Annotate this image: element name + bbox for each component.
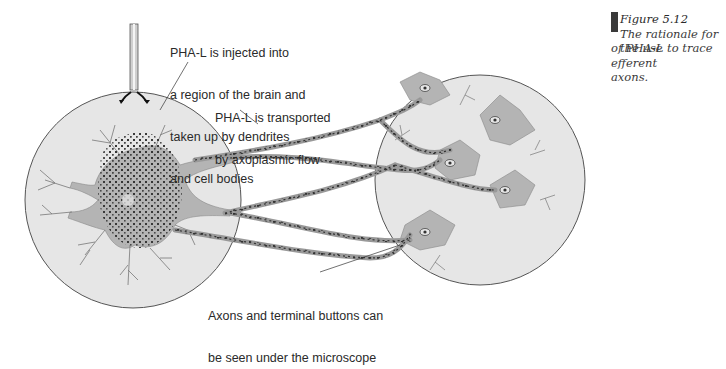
transport-label-line2: by axoplasmic flow [215, 153, 331, 167]
transport-label: PHA-L is transported by axoplasmic flow [215, 83, 331, 195]
caption-marker [611, 12, 618, 32]
microscope-label-line1: Axons and terminal buttons can [208, 309, 383, 323]
microscope-label-line2: be seen under the microscope [208, 351, 383, 365]
caption-line3: axons. [611, 70, 721, 85]
caption-line2: of PHA-L to trace efferent [611, 41, 721, 70]
injection-label-line1: PHA-L is injected into [170, 46, 306, 60]
target-region-circle [375, 72, 585, 285]
transport-label-line1: PHA-L is transported [215, 111, 331, 125]
figure-number: Figure 5.12 [620, 12, 726, 27]
microscope-label: Axons and terminal buttons can be seen u… [208, 281, 383, 369]
figure-caption-cont: of PHA-L to trace efferent axons. [611, 41, 721, 85]
